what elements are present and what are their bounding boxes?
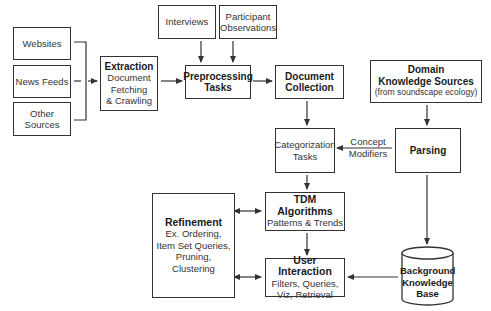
tdm-title: TDM Algorithms bbox=[266, 194, 344, 217]
preprocessing-line2: Tasks bbox=[204, 82, 232, 94]
extraction-line3: & Crawling bbox=[106, 95, 152, 107]
doc-collection-line2: Collection bbox=[285, 82, 333, 94]
doc-collection-line1: Document bbox=[285, 71, 334, 83]
participant-line2: Observations bbox=[220, 22, 276, 34]
node-websites: Websites bbox=[13, 27, 71, 60]
extraction-line1: Document bbox=[107, 72, 150, 84]
node-parsing: Parsing bbox=[395, 128, 461, 173]
node-news-feeds: News Feeds bbox=[13, 65, 71, 98]
preprocessing-line1: Preprocessing bbox=[183, 71, 252, 83]
other-sources-line2: Sources bbox=[25, 119, 60, 131]
user-interaction-title: User Interaction bbox=[266, 255, 344, 278]
node-extraction: Extraction Document Fetching & Crawling bbox=[100, 56, 158, 111]
bkb-line3: Base bbox=[400, 288, 455, 300]
edge-label-concept-modifiers: Concept Modifiers bbox=[345, 136, 391, 160]
tdm-subtitle: Patterns & Trends bbox=[267, 217, 343, 229]
categorization-line1: Categorization bbox=[274, 139, 335, 151]
node-user-interaction: User Interaction Filters, Queries, Viz, … bbox=[265, 258, 345, 297]
user-interaction-line2: Viz, Retrieval bbox=[277, 289, 333, 301]
refinement-line2: Item Set Queries, bbox=[157, 240, 231, 252]
extraction-title: Extraction bbox=[105, 61, 154, 73]
concept-label: Concept bbox=[345, 136, 391, 148]
bkb-line1: Background bbox=[400, 265, 455, 277]
node-interviews: Interviews bbox=[158, 5, 216, 39]
interviews-label: Interviews bbox=[166, 16, 209, 28]
node-other-sources: Other Sources bbox=[13, 102, 71, 136]
categorization-line2: Tasks bbox=[293, 151, 317, 163]
domain-line2: Knowledge Sources bbox=[378, 76, 474, 88]
refinement-line3: Pruning, bbox=[176, 251, 211, 263]
modifiers-label: Modifiers bbox=[345, 148, 391, 160]
node-preprocessing: Preprocessing Tasks bbox=[185, 65, 251, 99]
bkb-line2: Knowledge bbox=[400, 277, 455, 289]
extraction-line2: Fetching bbox=[111, 84, 147, 96]
node-tdm-algorithms: TDM Algorithms Patterns & Trends bbox=[265, 192, 345, 231]
domain-line1: Domain bbox=[408, 64, 445, 76]
node-participant-observations: Participant Observations bbox=[219, 5, 277, 39]
other-sources-line1: Other bbox=[30, 108, 54, 120]
refinement-line4: Clustering bbox=[172, 263, 215, 275]
refinement-line1: Ex. Ordering, bbox=[166, 228, 222, 240]
node-domain-knowledge: Domain Knowledge Sources (from soundscap… bbox=[370, 60, 482, 103]
node-background-kb: Background Knowledge Base bbox=[400, 265, 455, 300]
node-categorization: Categorization Tasks bbox=[275, 128, 335, 173]
user-interaction-line1: Filters, Queries, bbox=[271, 278, 338, 290]
domain-line3: (from soundscape ecology) bbox=[375, 87, 478, 99]
node-document-collection: Document Collection bbox=[275, 65, 344, 99]
websites-label: Websites bbox=[23, 38, 62, 50]
node-refinement: Refinement Ex. Ordering, Item Set Querie… bbox=[152, 193, 235, 298]
refinement-title: Refinement bbox=[165, 217, 222, 229]
parsing-label: Parsing bbox=[410, 145, 447, 157]
participant-line1: Participant bbox=[226, 11, 271, 23]
news-feeds-label: News Feeds bbox=[16, 76, 69, 88]
